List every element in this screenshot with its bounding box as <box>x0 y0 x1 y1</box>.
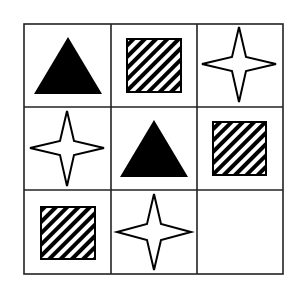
cell-0-0 <box>34 37 102 94</box>
striped-square-icon <box>213 122 266 175</box>
cell-0-2 <box>202 27 276 102</box>
four-point-star-icon <box>117 194 191 270</box>
solid-triangle-icon <box>34 37 102 94</box>
matrix-puzzle <box>0 0 296 290</box>
cell-2-0 <box>41 207 95 259</box>
solid-triangle-icon <box>120 120 188 177</box>
cell-2-1 <box>117 194 191 270</box>
striped-square-icon <box>127 39 181 92</box>
striped-square-icon <box>41 207 95 259</box>
cell-1-0 <box>30 111 104 186</box>
four-point-star-icon <box>30 111 104 186</box>
four-point-star-icon <box>202 27 276 102</box>
cell-0-1 <box>127 39 181 92</box>
cell-1-2 <box>213 122 266 175</box>
cell-1-1 <box>120 120 188 177</box>
